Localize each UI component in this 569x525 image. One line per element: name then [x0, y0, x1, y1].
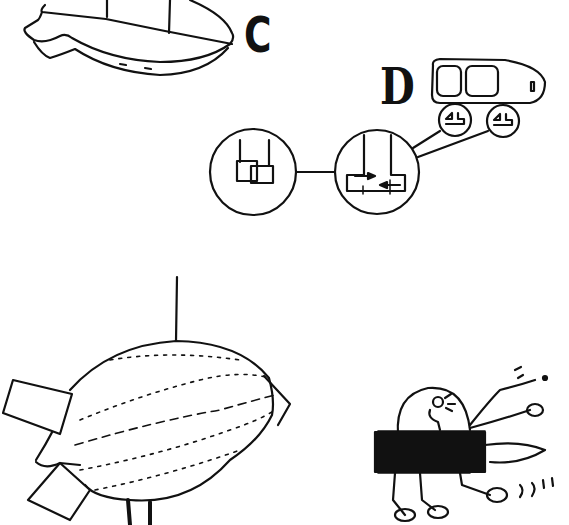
- blimp: [3, 277, 290, 525]
- runner-machine: [375, 367, 553, 521]
- vehicle-d: [432, 59, 545, 137]
- illustration-canvas: [0, 0, 569, 525]
- airship-gondola-c: [24, 0, 233, 75]
- label-c: C: [244, 10, 272, 60]
- connector-circles: [210, 129, 488, 215]
- label-d: D: [380, 62, 415, 112]
